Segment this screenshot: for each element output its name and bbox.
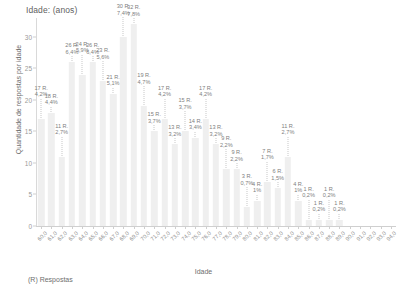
bar-group[interactable]: 1 R.0,2% (303, 18, 313, 226)
x-axis-tick-mark (82, 226, 83, 229)
x-axis-tick-mark (267, 226, 268, 229)
bar-group[interactable]: 15 R.3,7% (149, 18, 159, 226)
bar[interactable] (264, 182, 270, 226)
bar-count-label: 9 R. (221, 135, 231, 141)
label-leader-line (174, 138, 175, 143)
bar[interactable] (69, 62, 75, 226)
label-leader-line (51, 107, 52, 112)
x-axis-tick-mark (257, 226, 258, 229)
bar-group[interactable]: 13 R.3,2% (211, 18, 221, 226)
x-axis-tick-mark (195, 226, 196, 229)
label-leader-line (71, 56, 72, 61)
bar-group[interactable]: 9 R.2,2% (231, 18, 241, 226)
bar-group[interactable]: 23 R.5,6% (98, 18, 108, 226)
label-leader-line (287, 137, 288, 156)
y-axis-tick-label: 30 (18, 33, 32, 40)
x-axis-tick-mark (41, 226, 42, 229)
bar[interactable] (172, 144, 178, 226)
x-axis-tick-mark (51, 226, 52, 229)
bar-group[interactable]: 14 R.3,4% (190, 18, 200, 226)
x-axis-tick-label: 76,0 (201, 230, 213, 242)
bar-group[interactable] (375, 18, 385, 226)
bar-group[interactable]: 7 R.1,7% (262, 18, 272, 226)
x-axis-tick-mark (298, 226, 299, 229)
x-axis-tick-label: 90,0 (345, 230, 357, 242)
bar[interactable] (59, 157, 65, 226)
label-leader-line (318, 214, 319, 219)
bar-group[interactable]: 3 R.0,7% (242, 18, 252, 226)
label-leader-line (185, 111, 186, 130)
bar[interactable] (254, 201, 260, 226)
label-leader-line (215, 138, 216, 143)
bar-group[interactable]: 30 R.7,4% (118, 18, 128, 226)
bar[interactable] (100, 81, 106, 226)
bar[interactable] (233, 169, 239, 226)
x-axis-tick-mark (226, 226, 227, 229)
x-axis-tick-mark (144, 226, 145, 229)
bar-group[interactable] (355, 18, 365, 226)
bar-group[interactable]: 17 R.4,2% (201, 18, 211, 226)
label-leader-line (226, 149, 227, 168)
bar[interactable] (203, 119, 209, 226)
label-leader-line (277, 182, 278, 187)
bar[interactable] (192, 138, 198, 226)
bar-count-label: 9 R. (231, 149, 241, 155)
label-leader-line (133, 18, 134, 23)
bar[interactable] (244, 207, 250, 226)
x-axis-tick-mark (319, 226, 320, 229)
bar[interactable] (213, 144, 219, 226)
bar-group[interactable]: 4 R.1% (252, 18, 262, 226)
bar-group[interactable]: 13 R.3,2% (170, 18, 180, 226)
bar-group[interactable]: 17 R.4,2% (36, 18, 46, 226)
bar[interactable] (48, 113, 54, 226)
y-axis-tick-label: 5 (18, 191, 32, 198)
plot-area: 051015202530 17 R.4,2%18 R.4,4%11 R.2,7%… (36, 18, 396, 226)
label-leader-line (246, 187, 247, 206)
bar[interactable] (120, 37, 126, 226)
bar[interactable] (285, 157, 291, 226)
x-axis-tick-mark (206, 226, 207, 229)
bar[interactable] (38, 119, 44, 226)
bar[interactable] (161, 119, 167, 226)
bar-group[interactable]: 21 R.5,1% (108, 18, 118, 226)
label-leader-line (236, 163, 237, 168)
bar[interactable] (131, 24, 137, 226)
x-axis-tick-label: 94,0 (386, 230, 398, 242)
y-axis-tick-label: 20 (18, 96, 32, 103)
x-axis-tick-mark (154, 226, 155, 229)
bar-count-label: 1 R. (303, 186, 313, 192)
x-axis-tick-mark (288, 226, 289, 229)
bar[interactable] (151, 131, 157, 226)
bar[interactable] (223, 169, 229, 226)
x-axis-tick-label: 84,0 (283, 230, 295, 242)
bar-group[interactable]: 1 R.0,2% (324, 18, 334, 226)
label-leader-line (102, 61, 103, 80)
bar-group[interactable] (365, 18, 375, 226)
bar[interactable] (110, 94, 116, 226)
bar-count-label: 32 R. (127, 4, 140, 10)
x-axis-tick-mark (175, 226, 176, 229)
label-leader-line (308, 200, 309, 219)
bar[interactable] (295, 201, 301, 226)
y-axis-tick-label: 10 (18, 159, 32, 166)
bar-group[interactable]: 17 R.4,2% (159, 18, 169, 226)
bar-group[interactable]: 11 R.2,7% (283, 18, 293, 226)
x-axis-tick-mark (278, 226, 279, 229)
x-axis-tick-mark (339, 226, 340, 229)
bar-group[interactable]: 32 R.7,8% (129, 18, 139, 226)
x-axis-tick-label: 69,0 (129, 230, 141, 242)
bar-count-label: 4 R. (252, 181, 262, 187)
bar-group[interactable]: 9 R.2,2% (221, 18, 231, 226)
x-axis-tick-label: 73,0 (170, 230, 182, 242)
x-axis-tick-mark (350, 226, 351, 229)
bar[interactable] (79, 75, 85, 226)
bar[interactable] (182, 131, 188, 226)
bar[interactable] (275, 188, 281, 226)
bar-group[interactable] (345, 18, 355, 226)
x-axis-tick-mark (247, 226, 248, 229)
x-axis-tick-mark (391, 226, 392, 229)
bar-group[interactable]: 1 R.0,2% (334, 18, 344, 226)
bar[interactable] (89, 62, 95, 226)
bar-group[interactable] (386, 18, 396, 226)
bar[interactable] (141, 106, 147, 226)
